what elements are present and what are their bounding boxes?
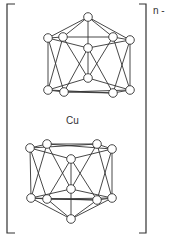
atom-node (67, 185, 76, 194)
atom-node (84, 13, 93, 22)
charge-label: n - (153, 6, 165, 16)
bond-line (71, 198, 112, 219)
atom-nodes (26, 13, 135, 224)
atom-node (109, 33, 118, 42)
bond-line (71, 144, 97, 189)
atom-node (126, 86, 135, 95)
bond-line (47, 159, 71, 199)
atom-node (108, 194, 117, 203)
atom-node (108, 145, 117, 154)
atom-node (43, 195, 52, 204)
atom-node (93, 140, 102, 149)
copper-label: Cu (66, 116, 79, 126)
atom-node (84, 44, 93, 53)
atom-node (27, 194, 36, 203)
bond-line (48, 78, 88, 90)
bond-line (47, 144, 71, 189)
bond-line (88, 17, 113, 37)
bond-line (48, 17, 88, 38)
atom-node (59, 33, 68, 42)
bond-lines (30, 17, 130, 219)
atom-node (44, 34, 53, 43)
bond-line (71, 189, 112, 198)
atom-node (126, 36, 135, 45)
bond-line (71, 200, 97, 219)
cluster-diagram (0, 0, 175, 238)
bond-line (31, 144, 47, 198)
right-bracket (139, 4, 146, 233)
bond-line (97, 149, 112, 200)
atom-node (44, 86, 53, 95)
bond-line (64, 48, 88, 92)
atom-node (67, 215, 76, 224)
atom-node (109, 89, 118, 98)
atom-node (60, 88, 69, 97)
bond-line (48, 38, 64, 92)
bond-line (113, 37, 130, 90)
atom-node (67, 155, 76, 164)
atom-node (93, 196, 102, 205)
bond-line (88, 48, 113, 93)
atom-node (43, 140, 52, 149)
atom-node (84, 74, 93, 83)
bond-line (30, 148, 31, 198)
atom-node (26, 144, 35, 153)
bond-line (113, 40, 130, 93)
bond-line (63, 17, 88, 37)
left-bracket (7, 4, 15, 233)
bond-line (48, 38, 88, 48)
bond-line (88, 37, 113, 78)
bond-line (88, 78, 130, 90)
